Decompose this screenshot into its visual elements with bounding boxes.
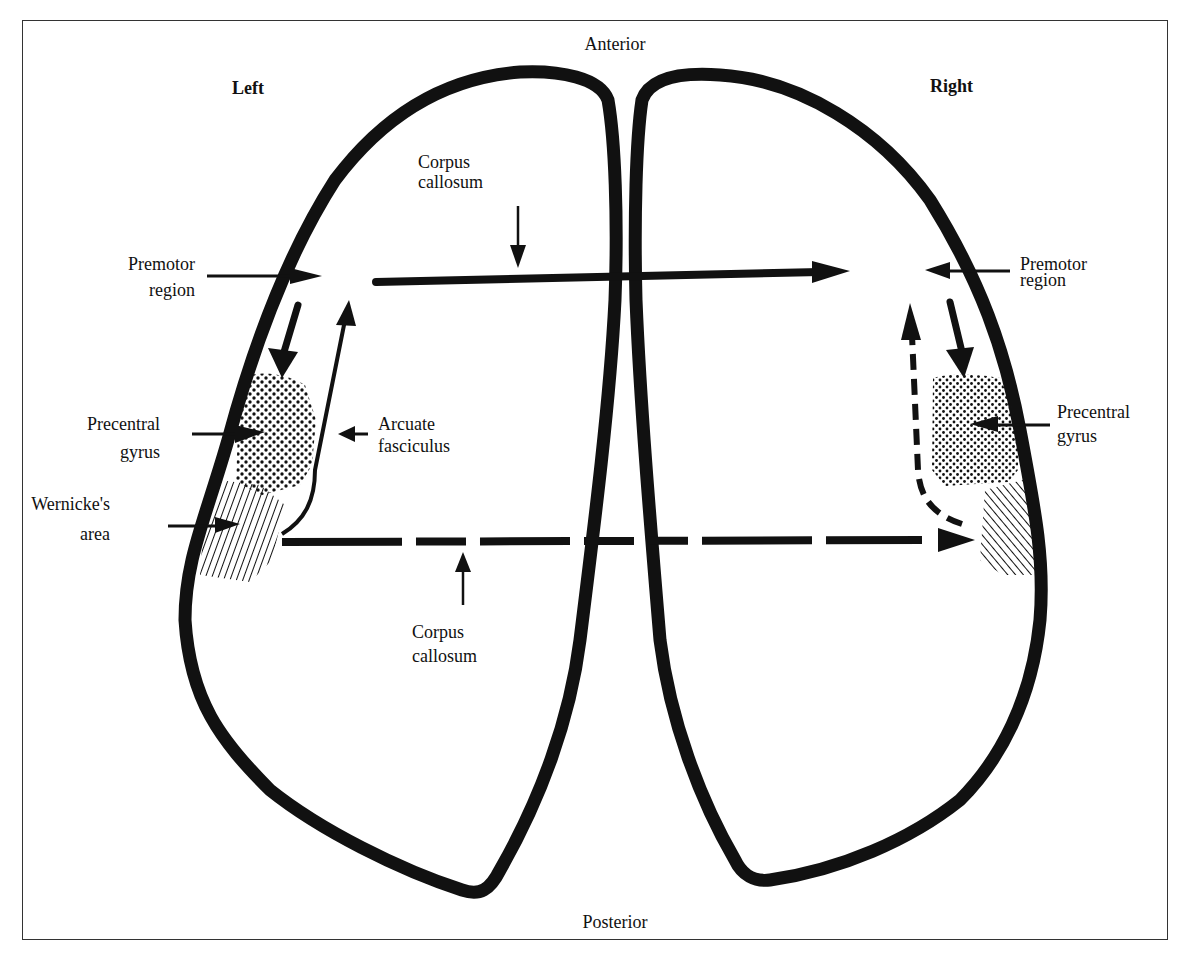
right-premotor-label-line2: region xyxy=(1020,270,1066,290)
right-precentral-label-line1: Precentral xyxy=(1057,402,1130,422)
brain-diagram xyxy=(0,0,1191,962)
corpus-callosum-top-pathway xyxy=(376,272,820,282)
left-wernicke-label-line1: Wernicke's xyxy=(18,494,110,514)
left-wernicke-area xyxy=(200,480,285,582)
arcuate-fasciculus-label-line2: fasciculus xyxy=(378,436,450,456)
left-hemisphere-title: Left xyxy=(232,78,264,98)
left-precentral-label-line1: Precentral xyxy=(60,414,160,434)
left-premotor-label-line1: Premotor xyxy=(110,254,195,274)
right-precentral-gyrus-region xyxy=(932,375,1018,486)
right-hemisphere-title: Right xyxy=(930,76,973,96)
corpus-callosum-top-label-line2: callosum xyxy=(418,172,483,192)
left-precentral-label-line2: gyrus xyxy=(60,442,160,462)
left-wernicke-label-line2: area xyxy=(18,524,110,544)
corpus-callosum-top-label-line1: Corpus xyxy=(418,152,470,172)
arcuate-fasciculus-label-line1: Arcuate xyxy=(378,414,435,434)
left-premotor-label-line2: region xyxy=(110,280,195,300)
posterior-label: Posterior xyxy=(560,912,670,932)
right-precentral-label-line2: gyrus xyxy=(1057,426,1097,446)
corpus-callosum-bottom-label-line1: Corpus xyxy=(412,622,464,642)
corpus-callosum-bottom-pathway xyxy=(282,540,922,542)
corpus-callosum-bottom-label-line2: callosum xyxy=(412,646,477,666)
anterior-label: Anterior xyxy=(560,34,670,54)
